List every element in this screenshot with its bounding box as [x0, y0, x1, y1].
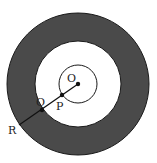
concentric-circles-diagram: O P Q R — [0, 0, 157, 163]
point-O — [76, 82, 80, 86]
point-P — [60, 93, 64, 97]
label-P: P — [56, 100, 64, 113]
label-O: O — [67, 72, 76, 85]
label-Q: Q — [36, 96, 45, 109]
label-R: R — [8, 124, 17, 137]
